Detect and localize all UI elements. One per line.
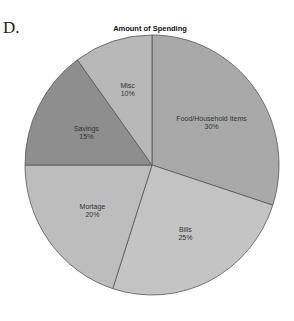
slice-percent: 30%	[205, 123, 219, 130]
slice-percent: 25%	[178, 234, 192, 241]
pie-chart: Food/Household Items30%Bills25%Mortage20…	[0, 0, 294, 321]
slice-label: Mortage	[80, 203, 106, 211]
slice-label: Misc	[120, 82, 135, 89]
slice-percent: 10%	[121, 90, 135, 97]
slice-label: Bills	[179, 226, 192, 233]
slice-percent: 15%	[79, 133, 93, 140]
slice-label: Food/Household Items	[176, 115, 247, 122]
slice-percent: 20%	[85, 211, 99, 218]
slice-label: Savings	[74, 125, 99, 133]
